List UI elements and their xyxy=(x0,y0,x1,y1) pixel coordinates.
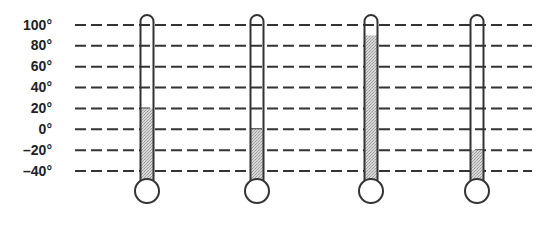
mercury-fill xyxy=(251,129,264,181)
mercury-fill xyxy=(471,150,484,181)
thermometer-bulb xyxy=(135,179,159,203)
thermometer-diagram xyxy=(0,0,546,225)
thermometer-bulb xyxy=(359,179,383,203)
mercury-fill xyxy=(141,108,154,181)
mercury-fill xyxy=(365,35,378,181)
thermometer-bulb xyxy=(465,179,489,203)
thermometer-bulb xyxy=(245,179,269,203)
